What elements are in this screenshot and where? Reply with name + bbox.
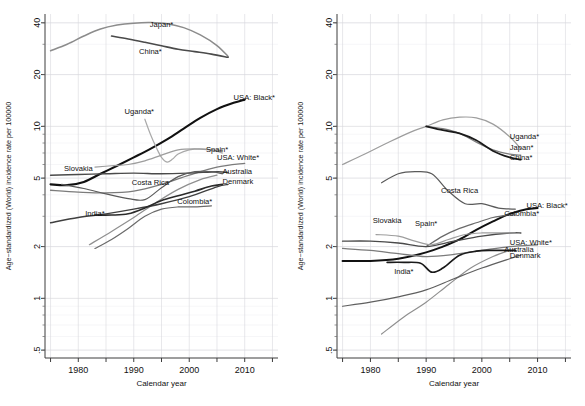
series-label-denmark: Denmark [223, 177, 254, 186]
series-line-japan [426, 126, 521, 155]
x-tick-label: 2000 [472, 365, 492, 375]
x-tick-label: 1990 [124, 365, 144, 375]
y-tick-label: .5 [32, 346, 42, 354]
series-label-india: India* [85, 209, 104, 218]
x-tick-label: 2010 [235, 365, 255, 375]
series-label-uganda: Uganda* [510, 132, 540, 141]
series-label-slovakia: Slovakia [64, 164, 93, 173]
x-tick-label: 2000 [179, 365, 199, 375]
y-tick-label: 1 [32, 296, 42, 301]
y-tick-label: 5 [32, 176, 42, 181]
series-label-usa-white: USA: White* [217, 153, 259, 162]
y-tick-label: 40 [32, 18, 42, 28]
chart-panel-left: Japan*China*USA: Black*Uganda*Spain*USA:… [0, 0, 292, 406]
y-tick-label: .5 [324, 346, 334, 354]
y-tick-label: 5 [324, 176, 334, 181]
series-line-uganda [343, 117, 521, 165]
series-label-usa-black: USA: Black* [234, 93, 275, 102]
x-tick-label: 1990 [416, 365, 436, 375]
y-tick-label: 1 [324, 296, 334, 301]
series-label-spain: Spain* [415, 219, 437, 228]
chart-svg-right: Uganda*Japan*China*Costa RicaUSA: Black*… [292, 0, 585, 406]
series-label-china: China* [139, 47, 162, 56]
x-tick-label: 1980 [360, 365, 380, 375]
series-line-china [112, 36, 229, 57]
y-tick-label: 10 [324, 121, 334, 131]
series-label-uganda: Uganda* [125, 107, 155, 116]
series-line-colombia [426, 215, 515, 247]
series-label-china: China* [510, 153, 533, 162]
x-tick-label: 2010 [528, 365, 548, 375]
y-tick-label: 2 [32, 244, 42, 249]
x-axis-title: Calendar year [429, 379, 480, 388]
figure-two-panel-line-charts: Japan*China*USA: Black*Uganda*Spain*USA:… [0, 0, 585, 406]
series-label-colombia: Colombia* [504, 209, 539, 218]
series-label-costa-rica: Costa Rica [132, 178, 170, 187]
y-tick-label: 2 [324, 244, 334, 249]
series-label-india: India* [394, 267, 413, 276]
series-label-costa-rica: Costa Rica [441, 186, 479, 195]
y-tick-label: 20 [324, 70, 334, 80]
y-tick-label: 10 [32, 121, 42, 131]
x-tick-label: 1980 [68, 365, 88, 375]
series-label-japan: Japan* [150, 20, 174, 29]
series-label-slovakia: Slovakia [373, 216, 402, 225]
y-axis-title: Age−standardized (World) incidence rate … [296, 102, 305, 271]
series-label-denmark: Denmark [510, 251, 541, 260]
series-label-australia: Australia [223, 167, 253, 176]
series-label-japan: Japan* [510, 143, 534, 152]
y-axis-title: Age−standardized (World) incidence rate … [4, 102, 13, 271]
y-tick-label: 40 [324, 18, 334, 28]
series-line-uganda [145, 119, 223, 162]
chart-svg-left: Japan*China*USA: Black*Uganda*Spain*USA:… [0, 0, 292, 406]
y-tick-label: 20 [32, 70, 42, 80]
series-label-colombia: Colombia* [177, 197, 212, 206]
chart-panel-right: Uganda*Japan*China*Costa RicaUSA: Black*… [292, 0, 585, 406]
x-axis-title: Calendar year [136, 379, 187, 388]
